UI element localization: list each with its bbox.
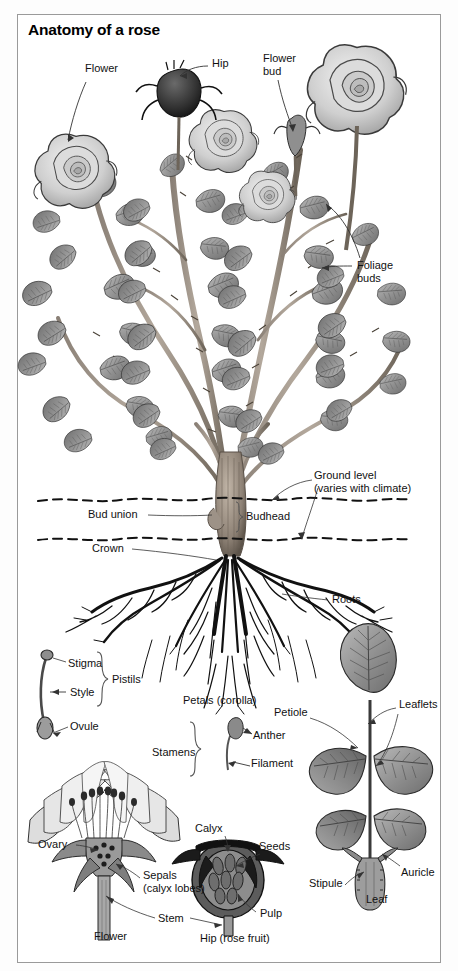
label-hip: Hip: [212, 57, 229, 70]
label-bud-union: Bud union: [88, 508, 138, 521]
label-sepals: Sepals (calyx lobes): [143, 869, 205, 894]
label-stem: Stem: [158, 912, 184, 925]
label-auricle: Auricle: [401, 866, 435, 879]
label-ovary: Ovary: [38, 838, 67, 851]
label-crown: Crown: [92, 542, 124, 555]
page-title: Anatomy of a rose: [28, 21, 160, 39]
label-foliage-buds: Foliage buds: [357, 259, 393, 284]
label-budhead: Budhead: [246, 510, 290, 523]
label-stigma: Stigma: [68, 657, 102, 670]
figure-page: Anatomy of a rose: [0, 0, 458, 971]
label-style: Style: [70, 686, 94, 699]
label-pulp: Pulp: [260, 907, 282, 920]
label-roots: Roots: [332, 593, 361, 606]
label-petals-corolla: Petals (corolla): [183, 694, 256, 707]
label-flower-bud: Flower bud: [263, 52, 296, 77]
label-hip-caption: Hip (rose fruit): [200, 932, 270, 945]
label-seeds: Seeds: [259, 840, 290, 853]
label-leaf-caption: Leaf: [366, 893, 387, 906]
label-flower: Flower: [85, 62, 118, 75]
label-petiole: Petiole: [274, 706, 308, 719]
label-calyx: Calyx: [195, 822, 223, 835]
label-stipule: Stipule: [309, 877, 343, 890]
label-ovule: Ovule: [70, 720, 99, 733]
label-leaflets: Leaflets: [399, 698, 438, 711]
label-filament: Filament: [251, 757, 293, 770]
label-anther: Anther: [253, 729, 285, 742]
label-ground-level: Ground level (varies with climate): [314, 469, 411, 494]
label-stamens: Stamens: [152, 746, 195, 759]
label-flower-caption: Flower: [94, 930, 127, 943]
label-pistils: Pistils: [112, 673, 141, 686]
